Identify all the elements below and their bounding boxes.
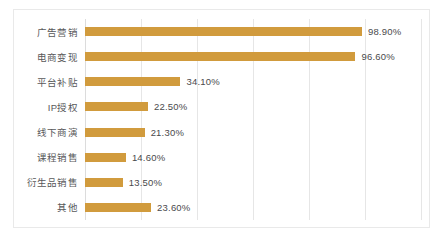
bar[interactable] bbox=[85, 102, 148, 111]
bar[interactable] bbox=[85, 153, 126, 162]
bar-value-label: 98.90% bbox=[368, 26, 401, 37]
bar-value-label: 13.50% bbox=[129, 177, 162, 188]
bar-row[interactable]: 平台补贴34.10% bbox=[85, 69, 421, 94]
bar[interactable] bbox=[85, 27, 362, 36]
bar[interactable] bbox=[85, 203, 151, 212]
bar-row[interactable]: 其他23.60% bbox=[85, 195, 421, 220]
bar-value-label: 23.60% bbox=[157, 202, 190, 213]
bar-row[interactable]: 广告营销98.90% bbox=[85, 19, 421, 44]
bar-row[interactable]: 课程销售14.60% bbox=[85, 145, 421, 170]
category-label: 衍生品销售 bbox=[27, 175, 79, 189]
bar[interactable] bbox=[85, 178, 123, 187]
bar-row[interactable]: 电商变现96.60% bbox=[85, 44, 421, 69]
bar[interactable] bbox=[85, 128, 145, 137]
bar[interactable] bbox=[85, 52, 355, 61]
category-label: 课程销售 bbox=[37, 150, 78, 164]
bar[interactable] bbox=[85, 77, 180, 86]
category-label: 电商变现 bbox=[37, 50, 78, 64]
bar-value-label: 22.50% bbox=[154, 101, 187, 112]
bar-row[interactable]: 线下商演21.30% bbox=[85, 120, 421, 145]
bar-row[interactable]: 衍生品销售13.50% bbox=[85, 170, 421, 195]
category-label: 广告营销 bbox=[37, 25, 78, 39]
category-label: 平台补贴 bbox=[37, 75, 78, 89]
category-label: IP授权 bbox=[48, 100, 78, 114]
bar-value-label: 14.60% bbox=[132, 152, 165, 163]
plot-area: 广告营销98.90%电商变现96.60%平台补贴34.10%IP授权22.50%… bbox=[85, 19, 421, 220]
bar-series: 广告营销98.90%电商变现96.60%平台补贴34.10%IP授权22.50%… bbox=[85, 19, 421, 220]
category-label: 其他 bbox=[57, 200, 78, 214]
bar-row[interactable]: IP授权22.50% bbox=[85, 94, 421, 119]
bar-value-label: 21.30% bbox=[151, 127, 184, 138]
bar-value-label: 34.10% bbox=[186, 76, 219, 87]
category-label: 线下商演 bbox=[37, 125, 78, 139]
chart-card: 广告营销98.90%电商变现96.60%平台补贴34.10%IP授权22.50%… bbox=[13, 9, 430, 228]
gridline bbox=[421, 19, 422, 220]
bar-value-label: 96.60% bbox=[361, 51, 394, 62]
